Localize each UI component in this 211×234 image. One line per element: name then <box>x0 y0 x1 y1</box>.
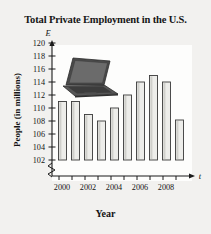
y-tick-label: 114 <box>33 78 45 87</box>
x-axis-variable: t <box>199 171 202 181</box>
x-axis-arrow <box>189 173 195 178</box>
y-axis-variable: E <box>44 28 51 38</box>
y-tick-label: 110 <box>33 104 45 113</box>
bar-shade <box>150 76 152 159</box>
bar-shade <box>137 83 139 159</box>
y-tick-label: 118 <box>33 52 45 61</box>
y-tick-label: 104 <box>33 143 45 152</box>
x-axis-label: Year <box>0 208 211 219</box>
chart-figure: Total Private Employment in the U.S. Peo… <box>0 0 211 234</box>
bar-shade <box>176 121 178 159</box>
x-tick-label: 2000 <box>54 183 70 192</box>
y-tick-label: 112 <box>33 91 45 100</box>
bar-shade <box>111 109 113 159</box>
bar-shade <box>85 115 87 159</box>
bar-shade <box>163 83 165 159</box>
bar-shade <box>124 96 126 159</box>
y-tick-label: 102 <box>33 156 45 165</box>
bar-shade <box>72 102 74 159</box>
x-tick-label: 2006 <box>132 183 148 192</box>
x-tick-label: 2008 <box>158 183 174 192</box>
y-tick-label: 108 <box>33 117 45 126</box>
x-tick-label: 2002 <box>80 183 96 192</box>
x-tick-label: 2004 <box>106 183 122 192</box>
bar-shade <box>59 102 61 159</box>
chart-graphics: E t 102 104 106 108 110 112 114 116 1 <box>0 0 211 234</box>
y-tick-label: 106 <box>33 130 45 139</box>
y-tick-label: 116 <box>33 65 45 74</box>
y-tick-label: 120 <box>33 39 45 48</box>
bar-shade <box>98 122 100 159</box>
